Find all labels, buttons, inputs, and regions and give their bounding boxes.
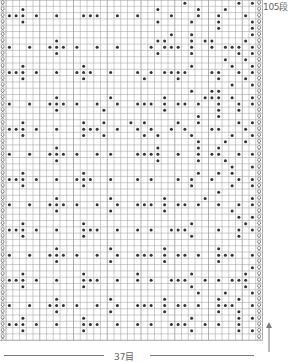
purl-dot-icon (183, 279, 186, 282)
purl-dot-icon (177, 254, 180, 257)
purl-dot-icon (109, 210, 112, 213)
purl-dot-icon (163, 39, 166, 42)
purl-dot-icon (163, 298, 166, 301)
purl-dot-icon (35, 178, 38, 181)
purl-dot-icon (21, 128, 24, 131)
purl-dot-icon (156, 159, 159, 162)
purl-dot-icon (217, 323, 220, 326)
purl-dot-icon (237, 71, 240, 74)
purl-dot-icon (109, 178, 112, 181)
purl-dot-icon (82, 128, 85, 131)
purl-dot-icon (231, 279, 234, 282)
purl-dot-icon (156, 153, 159, 156)
knitting-direction-arrow-icon (264, 322, 274, 352)
purl-dot-icon (190, 317, 193, 320)
purl-dot-icon (177, 203, 180, 206)
purl-dot-icon (8, 323, 11, 326)
purl-dot-icon (109, 298, 112, 301)
purl-dot-icon (75, 203, 78, 206)
purl-dot-icon (150, 203, 153, 206)
purl-dot-icon (163, 254, 166, 257)
purl-dot-icon (163, 304, 166, 307)
purl-dot-icon (116, 279, 119, 282)
purl-dot-icon (224, 58, 227, 61)
purl-dot-icon (136, 279, 139, 282)
purl-dot-icon (170, 46, 173, 49)
purl-dot-icon (150, 128, 153, 131)
purl-dot-icon (163, 71, 166, 74)
purl-dot-icon (82, 279, 85, 282)
purl-dot-icon (21, 323, 24, 326)
purl-dot-icon (116, 228, 119, 231)
purl-dot-icon (48, 203, 51, 206)
purl-dot-icon (156, 39, 159, 42)
purl-dot-icon (82, 121, 85, 124)
purl-dot-icon (55, 102, 58, 105)
purl-dot-icon (116, 102, 119, 105)
purl-dot-icon (204, 279, 207, 282)
purl-dot-icon (217, 21, 220, 24)
purl-dot-icon (190, 329, 193, 332)
purl-dot-icon (251, 65, 254, 68)
purl-dot-icon (210, 128, 213, 131)
purl-dot-icon (55, 298, 58, 301)
purl-dot-icon (35, 128, 38, 131)
purl-dot-icon (231, 65, 234, 68)
purl-dot-icon (136, 254, 139, 257)
purl-dot-icon (251, 184, 254, 187)
purl-dot-icon (15, 14, 18, 17)
purl-dot-icon (55, 247, 58, 250)
purl-dot-icon (170, 71, 173, 74)
purl-dot-icon (190, 21, 193, 24)
purl-dot-icon (244, 39, 247, 42)
purl-dot-icon (116, 203, 119, 206)
purl-dot-icon (48, 102, 51, 105)
purl-dot-icon (21, 317, 24, 320)
purl-dot-icon (156, 21, 159, 24)
purl-dot-icon (237, 153, 240, 156)
purl-dot-icon (251, 102, 254, 105)
purl-dot-icon (75, 71, 78, 74)
purl-dot-icon (35, 71, 38, 74)
purl-dot-icon (21, 77, 24, 80)
purl-dot-icon (116, 323, 119, 326)
purl-dot-icon (231, 84, 234, 87)
purl-dot-icon (8, 102, 11, 105)
purl-dot-icon (55, 109, 58, 112)
purl-dot-icon (170, 279, 173, 282)
purl-dot-icon (150, 304, 153, 307)
purl-dot-icon (89, 279, 92, 282)
purl-dot-icon (177, 323, 180, 326)
purl-dot-icon (177, 102, 180, 105)
purl-dot-icon (251, 46, 254, 49)
purl-dot-icon (55, 71, 58, 74)
purl-dot-icon (231, 172, 234, 175)
purl-dot-icon (197, 115, 200, 118)
purl-dot-icon (190, 33, 193, 36)
purl-dot-icon (35, 228, 38, 231)
purl-dot-icon (150, 102, 153, 105)
purl-dot-icon (237, 109, 240, 112)
purl-dot-icon (150, 254, 153, 257)
purl-dot-icon (55, 228, 58, 231)
purl-dot-icon (55, 210, 58, 213)
purl-dot-icon (8, 128, 11, 131)
purl-dot-icon (190, 184, 193, 187)
purl-dot-icon (96, 279, 99, 282)
purl-dot-icon (237, 298, 240, 301)
purl-dot-icon (143, 304, 146, 307)
purl-dot-icon (177, 178, 180, 181)
purl-dot-icon (96, 46, 99, 49)
purl-dot-icon (28, 203, 31, 206)
purl-dot-icon (177, 46, 180, 49)
purl-dot-icon (82, 172, 85, 175)
purl-dot-icon (150, 323, 153, 326)
purl-dot-icon (251, 329, 254, 332)
purl-dot-icon (244, 285, 247, 288)
purl-dot-icon (217, 27, 220, 30)
purl-dot-icon (244, 279, 247, 282)
purl-dot-icon (55, 323, 58, 326)
purl-dot-icon (55, 304, 58, 307)
purl-dot-icon (237, 317, 240, 320)
purl-dot-icon (190, 178, 193, 181)
